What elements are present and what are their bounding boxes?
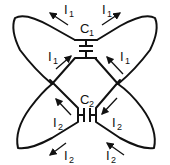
svg-text:1: 1 (69, 9, 74, 19)
svg-text:2: 2 (89, 99, 94, 109)
label-c1: C1 (80, 21, 94, 38)
svg-text:I: I (106, 148, 110, 163)
svg-text:2: 2 (58, 122, 63, 132)
capacitor-c2 (78, 108, 96, 122)
svg-text:I: I (112, 115, 116, 130)
svg-text:2: 2 (111, 155, 116, 165)
svg-text:2: 2 (117, 122, 122, 132)
svg-text:2: 2 (69, 155, 74, 165)
svg-text:I: I (120, 49, 124, 64)
current-arrow-i2-bottom-right: I2 (106, 143, 124, 165)
svg-text:C: C (80, 21, 89, 36)
svg-text:1: 1 (125, 56, 130, 66)
svg-text:I: I (64, 2, 68, 17)
current-arrow-i1-top-left: I1 (50, 2, 74, 25)
capacitor-c1 (75, 40, 97, 58)
circuit-diagram: C1 C2 I1 I1 I1 I1 I2 I2 I2 I2 (0, 0, 170, 165)
svg-text:I: I (53, 115, 57, 130)
label-c2: C2 (80, 92, 94, 109)
svg-text:1: 1 (53, 56, 58, 66)
svg-text:I: I (102, 2, 106, 17)
svg-text:I: I (64, 148, 68, 163)
current-arrow-i1-top-right: I1 (102, 2, 120, 25)
svg-text:1: 1 (107, 9, 112, 19)
svg-text:1: 1 (89, 28, 94, 38)
svg-text:I: I (48, 49, 52, 64)
wire-loop-2-right (96, 80, 155, 148)
svg-text:C: C (80, 92, 89, 107)
wire-loop-2-left (17, 80, 78, 148)
current-arrow-i1-mid-right: I1 (107, 49, 130, 74)
current-arrow-i2-bottom-left: I2 (50, 143, 74, 165)
